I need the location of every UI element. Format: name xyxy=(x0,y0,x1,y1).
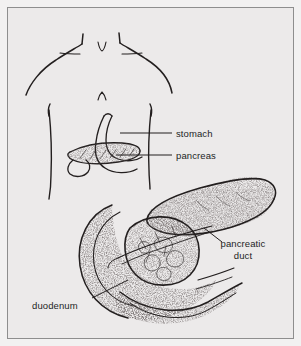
inset-pancreas-upper-edge xyxy=(70,143,140,152)
right-clavicle-mark xyxy=(122,53,142,54)
stomach-cardia xyxy=(104,114,112,116)
left-neck-line xyxy=(82,34,83,44)
label-duodenum: duodenum xyxy=(32,300,78,312)
torso-inset xyxy=(26,33,172,199)
suprasternal-notch-mark xyxy=(98,42,106,51)
left-clavicle-mark xyxy=(60,53,80,54)
label-pancreatic-duct: pancreatic duct xyxy=(212,238,274,262)
left-shoulder-outline xyxy=(26,44,82,95)
right-neck-line xyxy=(119,33,120,43)
inset-organs xyxy=(60,114,150,177)
right-flank-outline xyxy=(149,110,151,189)
right-shoulder-outline xyxy=(120,43,172,93)
label-stomach: stomach xyxy=(176,128,213,140)
anatomy-illustration xyxy=(0,0,301,346)
stomach-lesser-curve xyxy=(106,116,142,161)
figure-container: stomach pancreas pancreatic duct duodenu… xyxy=(0,0,301,346)
left-flank-outline xyxy=(49,110,51,199)
xiphoid-mark xyxy=(98,92,106,100)
label-pancreas: pancreas xyxy=(176,150,216,162)
